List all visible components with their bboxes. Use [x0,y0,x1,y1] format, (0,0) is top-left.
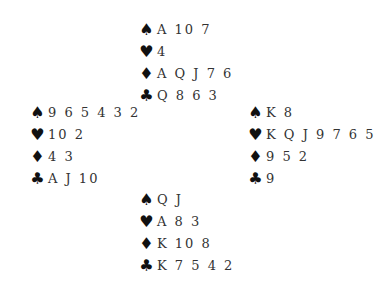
spade-icon: ♠ [138,19,155,41]
south-hearts: A 8 3 [157,211,201,233]
west-clubs: A J 10 [48,168,99,190]
south-spades-row: ♠Q J [138,189,234,211]
heart-icon: ♥ [138,41,155,63]
spade-icon: ♠ [247,102,264,124]
south-hand: ♠Q J ♥A 8 3 ♦K 10 8 ♣K 7 5 4 2 [138,189,234,277]
south-clubs-row: ♣K 7 5 4 2 [138,255,234,277]
north-clubs-row: ♣Q 8 6 3 [138,85,233,107]
east-hand: ♠K 8 ♥K Q J 9 7 6 5 ♦9 5 2 ♣9 [247,102,375,190]
south-diamonds-row: ♦K 10 8 [138,233,234,255]
north-hearts: 4 [157,41,167,63]
south-spades: Q J [157,189,183,211]
north-diamonds-row: ♦A Q J 7 6 [138,63,233,85]
west-spades: 9 6 5 4 3 2 [48,102,140,124]
north-diamonds: A Q J 7 6 [157,63,233,85]
diamond-icon: ♦ [247,146,264,168]
north-hand: ♠A 10 7 ♥4 ♦A Q J 7 6 ♣Q 8 6 3 [138,19,233,107]
west-hearts: 10 2 [48,124,85,146]
west-diamonds-row: ♦4 3 [29,146,140,168]
heart-icon: ♥ [247,124,264,146]
south-diamonds: K 10 8 [157,233,212,255]
east-diamonds: 9 5 2 [266,146,309,168]
north-spades: A 10 7 [157,19,211,41]
east-spades: K 8 [266,102,294,124]
club-icon: ♣ [138,85,155,107]
east-clubs-row: ♣9 [247,168,375,190]
west-hearts-row: ♥10 2 [29,124,140,146]
club-icon: ♣ [138,255,155,277]
north-hearts-row: ♥4 [138,41,233,63]
diamond-icon: ♦ [29,146,46,168]
east-clubs: 9 [266,168,276,190]
heart-icon: ♥ [29,124,46,146]
west-clubs-row: ♣A J 10 [29,168,140,190]
spade-icon: ♠ [29,102,46,124]
east-spades-row: ♠K 8 [247,102,375,124]
east-hearts-row: ♥K Q J 9 7 6 5 [247,124,375,146]
diamond-icon: ♦ [138,63,155,85]
heart-icon: ♥ [138,211,155,233]
east-diamonds-row: ♦9 5 2 [247,146,375,168]
west-diamonds: 4 3 [48,146,75,168]
north-clubs: Q 8 6 3 [157,85,219,107]
club-icon: ♣ [29,168,46,190]
north-spades-row: ♠A 10 7 [138,19,233,41]
diamond-icon: ♦ [138,233,155,255]
south-clubs: K 7 5 4 2 [157,255,234,277]
club-icon: ♣ [247,168,264,190]
spade-icon: ♠ [138,189,155,211]
west-spades-row: ♠9 6 5 4 3 2 [29,102,140,124]
south-hearts-row: ♥A 8 3 [138,211,234,233]
west-hand: ♠9 6 5 4 3 2 ♥10 2 ♦4 3 ♣A J 10 [29,102,140,190]
east-hearts: K Q J 9 7 6 5 [266,124,375,146]
